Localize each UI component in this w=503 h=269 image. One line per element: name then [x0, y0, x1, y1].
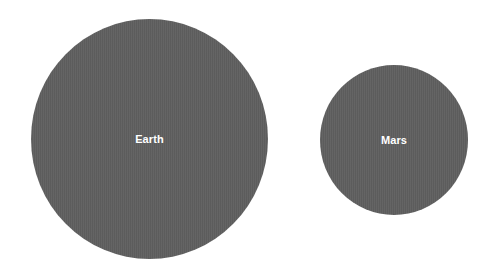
earth-circle: Earth — [31, 19, 268, 259]
mars-label: Mars — [381, 134, 407, 146]
earth-label: Earth — [135, 133, 164, 145]
mars-circle: Mars — [320, 65, 468, 215]
